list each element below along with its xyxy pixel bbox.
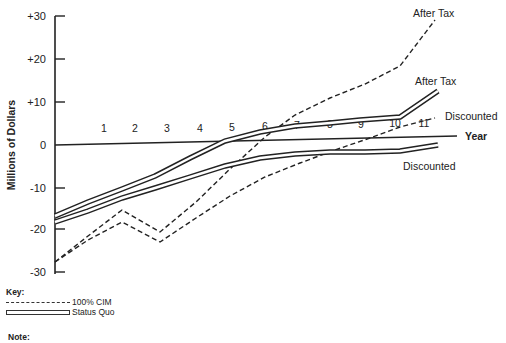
y-axis-label: Millions of Dollars xyxy=(5,100,17,191)
dashed-line-swatch xyxy=(6,302,70,303)
double-line-swatch xyxy=(6,310,70,315)
y-ticks xyxy=(55,16,65,272)
y-tick-label: -10 xyxy=(30,182,46,194)
legend-label: Status Quo xyxy=(72,307,115,317)
year-label: 5 xyxy=(229,121,235,133)
y-tick-label: +20 xyxy=(27,53,46,65)
series-sq-discounted-inner xyxy=(55,145,438,222)
y-tick-label: -30 xyxy=(30,266,46,278)
legend-title: Key: xyxy=(6,287,115,297)
legend-item-status-quo: Status Quo xyxy=(6,307,115,317)
year-label: 11 xyxy=(419,117,430,129)
year-label: 1 xyxy=(101,122,107,134)
y-tick-label: 0 xyxy=(40,139,46,151)
y-tick-label: +30 xyxy=(27,10,46,22)
annotation-cim-after-tax: After Tax xyxy=(413,7,455,19)
series-sq-discounted xyxy=(55,145,438,222)
x-axis-label: Year xyxy=(465,130,487,142)
annotation-sq-after-tax: After Tax xyxy=(415,75,457,87)
year-label: 2 xyxy=(132,122,138,134)
year-label: 4 xyxy=(197,122,203,134)
note-label: Note: xyxy=(8,332,30,342)
year-axis xyxy=(55,136,457,145)
legend-label: 100% CIM xyxy=(72,297,112,307)
legend-item-cim: 100% CIM xyxy=(6,297,115,307)
legend: Key: 100% CIM Status Quo xyxy=(6,287,115,317)
y-tick-label: +10 xyxy=(27,96,46,108)
annotation-cim-discounted: Discounted xyxy=(445,110,498,122)
y-tick-label: -20 xyxy=(30,223,46,235)
annotation-sq-discounted: Discounted xyxy=(403,160,456,172)
year-label: 3 xyxy=(164,122,170,134)
